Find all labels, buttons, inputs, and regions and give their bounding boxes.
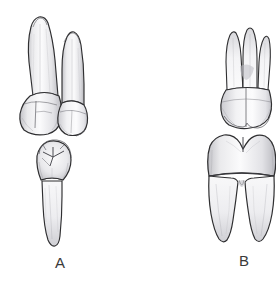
mesiobuccal-root <box>226 32 243 90</box>
crown-outline <box>208 135 276 176</box>
tooth-maxillary-first-premolar-buccal <box>20 17 62 135</box>
crown-outline <box>37 141 71 180</box>
dental-illustration-svg <box>0 0 276 281</box>
distal-root <box>245 176 274 242</box>
dental-figure: A B <box>0 0 276 281</box>
tooth-maxillary-first-molar-buccal <box>221 28 272 129</box>
tooth-maxillary-second-premolar-buccal <box>58 32 88 136</box>
tooth-mandibular-premolar-occlusal-root <box>37 140 71 246</box>
tooth-mandibular-first-molar-buccal <box>208 135 276 242</box>
mesial-root <box>209 176 238 242</box>
panel-label-a: A <box>55 255 65 270</box>
crown-outline <box>58 101 88 136</box>
crown-outline <box>20 93 62 135</box>
root-outline <box>62 32 84 105</box>
panel-b-group <box>208 28 276 242</box>
root-outline <box>28 17 58 96</box>
panel-label-b: B <box>239 253 249 268</box>
panel-a-group <box>20 17 88 246</box>
